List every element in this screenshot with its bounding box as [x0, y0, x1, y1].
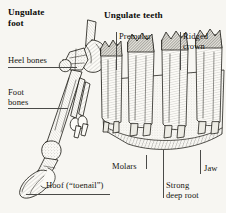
leader-hoof	[26, 194, 110, 195]
label-strong-deep-root: Strong deep root	[166, 181, 199, 200]
leader-premolar	[116, 32, 117, 70]
leader-foot-bones	[8, 108, 68, 109]
ungulate-anatomy-figure: Ungulate foot Heel bones Foot bones Hoof…	[0, 0, 226, 213]
leader-heel-bones	[8, 67, 77, 68]
leader-molars	[146, 155, 147, 169]
leader-strong-deep-root	[163, 150, 164, 198]
label-molars: Molars	[112, 162, 137, 172]
label-heel-bones: Heel bones	[8, 56, 47, 66]
ungulate-foot-title: Ungulate foot	[8, 7, 68, 28]
label-jaw: Jaw	[204, 164, 218, 174]
leader-jaw	[200, 150, 201, 174]
label-ridged-crown: Ridged crown	[183, 32, 208, 51]
label-premolar: Premolar	[119, 32, 151, 42]
label-foot-bones: Foot bones	[8, 88, 28, 107]
leader-ridged-crown	[180, 32, 181, 70]
label-hoof: Hoof (“toenail”)	[46, 181, 104, 191]
ungulate-teeth-title: Ungulate teeth	[104, 10, 194, 21]
